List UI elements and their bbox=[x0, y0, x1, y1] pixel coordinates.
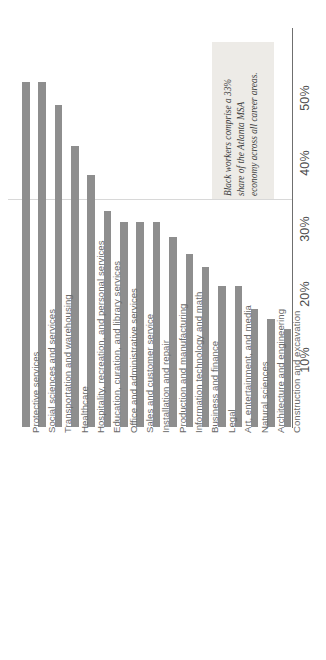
bar bbox=[235, 0, 243, 427]
bar-chart: Black workers comprise a 33% share of th… bbox=[0, 0, 326, 660]
bar-fill bbox=[22, 82, 30, 427]
category-label: Office and administrative services bbox=[128, 288, 139, 433]
category-label: Protective services bbox=[30, 352, 41, 433]
category-label: Installation and repair bbox=[160, 340, 171, 433]
tick-label: 30% bbox=[298, 208, 312, 250]
tick-label: 50% bbox=[298, 77, 312, 119]
bar-fill bbox=[235, 286, 243, 427]
category-label: Hospitality, recreation, and personal se… bbox=[95, 241, 106, 434]
category-label: Business and finance bbox=[209, 341, 220, 433]
category-label: Sales and customer service bbox=[144, 314, 155, 433]
category-label: Art, entertainment, and media bbox=[242, 305, 253, 433]
category-label: Transportation and warehousing bbox=[62, 294, 73, 433]
plot-area: Black workers comprise a 33% share of th… bbox=[0, 0, 326, 660]
category-label: Healthcare bbox=[79, 386, 90, 433]
bar bbox=[22, 0, 30, 427]
category-label: Legal bbox=[226, 409, 237, 433]
tick-label: 40% bbox=[298, 142, 312, 184]
category-label: Social sciences and services bbox=[46, 309, 57, 433]
category-label: Production and manufacturing bbox=[177, 304, 188, 433]
category-label: Education, curation, and library service… bbox=[111, 261, 122, 433]
category-label: Architecture and engineering bbox=[275, 309, 286, 433]
tick-label: 20% bbox=[298, 273, 312, 315]
bar bbox=[87, 0, 95, 427]
category-label: Natural sciences bbox=[259, 361, 270, 433]
category-label: Construction and excavation bbox=[291, 311, 302, 433]
category-label: Information technology and math bbox=[193, 292, 204, 433]
